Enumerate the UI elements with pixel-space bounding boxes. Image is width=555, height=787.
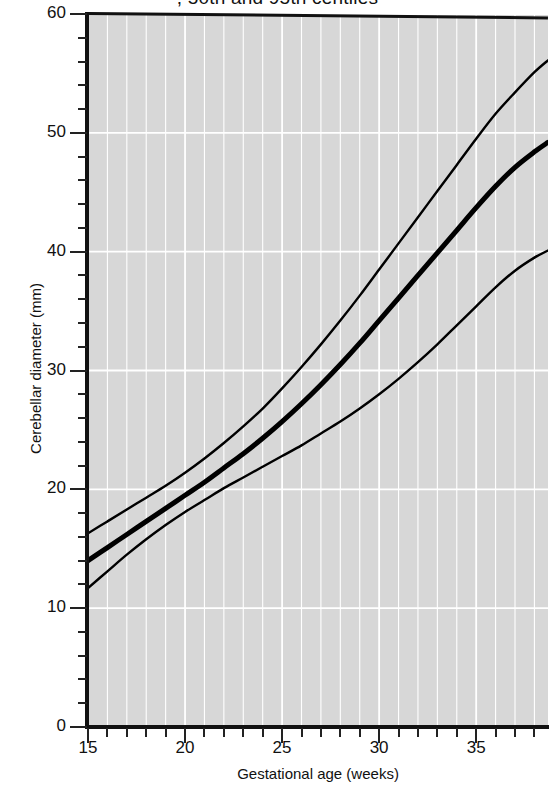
chart-title: , 50th and 95th centiles	[0, 0, 555, 9]
y-tick-minor	[78, 179, 87, 181]
y-tick-minor	[78, 441, 87, 443]
y-tick-label: 10	[26, 597, 66, 617]
y-tick-major	[70, 132, 87, 134]
x-tick-minor	[242, 728, 244, 737]
x-tick-minor	[106, 728, 108, 737]
centile-curve	[88, 142, 548, 560]
x-tick-minor	[436, 728, 438, 737]
y-tick-minor	[78, 702, 87, 704]
y-tick-minor	[78, 465, 87, 467]
x-tick-label: 15	[66, 738, 110, 758]
x-axis-title: Gestational age (weeks)	[88, 765, 548, 782]
y-tick-minor	[78, 274, 87, 276]
y-tick-minor	[78, 536, 87, 538]
y-tick-major	[70, 370, 87, 372]
y-tick-minor	[78, 678, 87, 680]
plot-svg	[88, 14, 548, 727]
y-tick-minor	[78, 37, 87, 39]
x-tick-minor	[359, 728, 361, 737]
y-tick-minor	[78, 298, 87, 300]
y-tick-minor	[78, 560, 87, 562]
centile-curves	[88, 60, 548, 588]
x-tick-minor	[533, 728, 535, 737]
y-tick-minor	[78, 417, 87, 419]
y-tick-minor	[78, 512, 87, 514]
x-tick-minor	[398, 728, 400, 737]
x-tick-minor	[203, 728, 205, 737]
y-tick-major	[70, 726, 87, 728]
x-tick-minor	[456, 728, 458, 737]
plot-area	[88, 14, 548, 727]
x-tick-minor	[262, 728, 264, 737]
x-tick-minor	[339, 728, 341, 737]
y-tick-minor	[78, 203, 87, 205]
x-tick-minor	[126, 728, 128, 737]
x-tick-minor	[301, 728, 303, 737]
x-tick-minor	[514, 728, 516, 737]
y-tick-major	[70, 488, 87, 490]
y-tick-minor	[78, 322, 87, 324]
x-tick-minor	[320, 728, 322, 737]
y-tick-minor	[78, 227, 87, 229]
x-tick-minor	[495, 728, 497, 737]
y-tick-minor	[78, 61, 87, 63]
x-tick-label: 25	[260, 738, 304, 758]
y-tick-minor	[78, 655, 87, 657]
centile-curve	[88, 60, 548, 533]
y-tick-label: 0	[26, 716, 66, 736]
gridlines	[88, 14, 548, 727]
centile-curve	[88, 250, 548, 587]
y-tick-minor	[78, 583, 87, 585]
y-tick-label: 50	[26, 122, 66, 142]
y-tick-major	[70, 607, 87, 609]
x-tick-minor	[165, 728, 167, 737]
y-tick-minor	[78, 393, 87, 395]
y-tick-minor	[78, 631, 87, 633]
y-tick-minor	[78, 156, 87, 158]
x-tick-label: 30	[357, 738, 401, 758]
x-tick-minor	[223, 728, 225, 737]
chart-figure: , 50th and 95th centiles 0102030405060 1…	[0, 0, 555, 787]
x-tick-minor	[145, 728, 147, 737]
y-axis-title: Cerebellar diameter (mm)	[27, 239, 44, 499]
y-tick-major	[70, 13, 87, 15]
y-tick-minor	[78, 84, 87, 86]
y-tick-minor	[78, 108, 87, 110]
x-tick-label: 35	[454, 738, 498, 758]
x-tick-label: 20	[163, 738, 207, 758]
y-tick-minor	[78, 346, 87, 348]
y-tick-label: 60	[26, 3, 66, 23]
x-axis-line	[85, 725, 549, 729]
x-tick-minor	[417, 728, 419, 737]
y-tick-major	[70, 251, 87, 253]
